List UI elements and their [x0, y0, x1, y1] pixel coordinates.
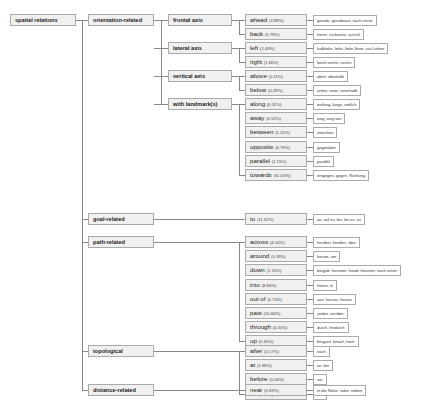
term: between [250, 128, 275, 135]
frequency: (0.73%) [267, 297, 282, 302]
frequency: (0.51%) [266, 116, 281, 121]
connector-line [82, 242, 88, 243]
frequency: (1.80%) [264, 60, 279, 65]
frequency: (10.66%) [263, 311, 280, 316]
connector-line [232, 48, 245, 49]
connector-line [307, 175, 313, 176]
term: down [250, 266, 267, 273]
leaf-term: into (8.86%) [245, 279, 307, 291]
leaf-term: right (1.80%) [245, 56, 307, 68]
term: back [250, 30, 265, 37]
connector-line [154, 390, 245, 391]
connector-line [239, 175, 245, 176]
connector-line [307, 365, 313, 366]
frequency: (0.39%) [271, 254, 286, 259]
term: to [250, 215, 257, 222]
frequency: (31.63%) [273, 173, 290, 178]
connector-line [307, 20, 313, 21]
term: before [250, 375, 269, 382]
category-node: orientation-related [88, 14, 154, 26]
connector-line [307, 285, 313, 286]
category-node: path-related [88, 236, 154, 248]
leaf-term: towards (31.63%) [245, 169, 307, 181]
connector-line [239, 90, 245, 91]
term: away [250, 114, 266, 121]
connector-line [307, 48, 313, 49]
connector-line [307, 161, 313, 162]
term: after [250, 347, 264, 354]
frequency: (0.17%) [264, 349, 279, 354]
translation: entgegen, gegen, Richtung [313, 170, 369, 181]
subcategory-node: lateral axis [168, 42, 232, 54]
connector-line [307, 34, 313, 35]
translation: weg, weg von [313, 113, 345, 124]
connector-line [307, 379, 313, 380]
frequency: (1.49%) [260, 46, 275, 51]
leaf-term: along (6.32%) [245, 98, 307, 110]
frequency: (6.32%) [267, 102, 282, 107]
term: left [250, 44, 260, 51]
frequency: (4.30%) [273, 325, 288, 330]
connector-line [239, 20, 240, 34]
connector-line [232, 20, 245, 21]
frequency: (0.79%) [265, 32, 280, 37]
term: up [250, 337, 259, 344]
term: parallel [250, 157, 272, 164]
connector-line [82, 20, 88, 21]
connector-line [239, 351, 240, 394]
translation: unten, unter, unterhalb [313, 85, 361, 96]
connector-line [232, 76, 245, 77]
leaf-term: across (4.16%) [245, 236, 307, 248]
frequency: (1.24%) [275, 130, 290, 135]
term: near [250, 386, 264, 393]
connector-line [232, 104, 245, 105]
translation: durch, hindurch [313, 322, 349, 333]
frequency: (11.52%) [257, 217, 274, 222]
translation: bergab, herunter, hinab, hinunter, nach … [313, 265, 401, 276]
connector-line [307, 132, 313, 133]
translation: zwischen [313, 127, 337, 138]
connector-line [154, 351, 245, 352]
leaf-term: around (0.39%) [245, 250, 307, 262]
translation: oben, oberhalb [313, 71, 348, 82]
translation: hinein, in [313, 280, 337, 291]
term: above [250, 72, 269, 79]
frequency: (3.88%) [269, 18, 284, 23]
translation: leicht rechts, rechts [313, 57, 355, 68]
translation: herüber, hinüber, über [313, 237, 360, 248]
connector-line [307, 299, 313, 300]
leaf-term: away (0.51%) [245, 112, 307, 124]
connector-line [307, 147, 313, 148]
term: out of [250, 295, 267, 302]
frequency: (0.93%) [264, 388, 279, 393]
connector-line [307, 256, 313, 257]
leaf-term: to (11.52%) [245, 213, 307, 225]
connector-line [307, 327, 313, 328]
connector-line [307, 270, 313, 271]
category-node: goal-related [88, 213, 154, 225]
frequency: (0.06%) [269, 377, 284, 382]
connector-line [307, 341, 313, 342]
term: ahead [250, 16, 269, 23]
leaf-term: back (0.79%) [245, 28, 307, 40]
leaf-term: out of (0.73%) [245, 293, 307, 305]
connector-line [239, 104, 240, 175]
category-node: topological [88, 345, 154, 357]
term: along [250, 100, 267, 107]
connector-line [82, 390, 88, 391]
connector-line [154, 242, 245, 243]
translation: nach [313, 346, 330, 357]
frequency: (0.28%) [268, 88, 283, 93]
frequency: (0.79%) [275, 145, 290, 150]
connector-line [82, 20, 83, 390]
term: at [250, 361, 257, 368]
root-node: spatial relations [10, 14, 76, 26]
frequency: (0.11%) [269, 74, 283, 79]
translation: vorbei, vorüber [313, 308, 348, 319]
connector-line [307, 351, 313, 352]
connector-line [307, 219, 313, 220]
category-node: distance-related [88, 384, 154, 396]
frequency: (1.15%) [272, 159, 287, 164]
connector-line [307, 62, 313, 63]
leaf-term: left (1.49%) [245, 42, 307, 54]
